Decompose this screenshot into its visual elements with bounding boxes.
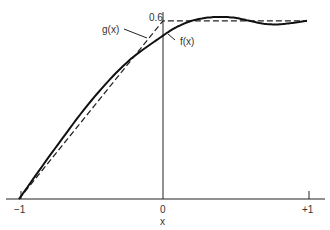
f-label-leader: [168, 34, 175, 40]
x-axis-title: x: [160, 217, 165, 227]
x-tick-label-neg1: −1: [14, 205, 25, 215]
x-tick-label-pos1: +1: [302, 205, 313, 215]
f-curve-label: f(x): [180, 37, 194, 47]
g-curve-label: g(x): [102, 25, 119, 35]
y-tick-label-0-6: 0.6: [149, 13, 163, 23]
chart-plot: [0, 0, 330, 230]
x-tick-label-0: 0: [160, 205, 166, 215]
g-label-leader: [124, 29, 147, 38]
